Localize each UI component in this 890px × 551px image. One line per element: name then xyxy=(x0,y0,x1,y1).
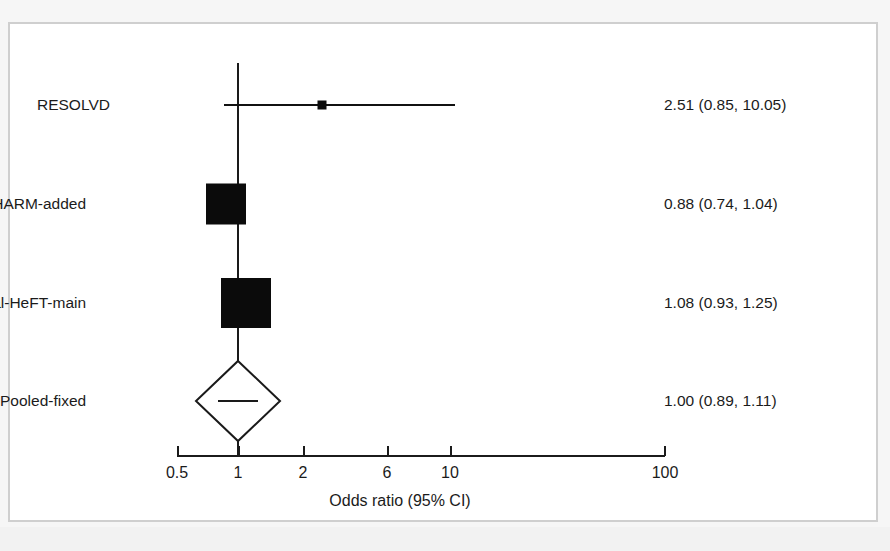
x-axis-tick-0-5 xyxy=(177,446,179,456)
stat-label-pooled-fixed: 1.00 (0.89, 1.11) xyxy=(664,392,777,410)
study-label-resolvd: RESOLVD xyxy=(37,96,110,114)
forest-plot-canvas: RESOLVD 2.51 (0.85, 10.05) CHARM-added 0… xyxy=(0,0,890,551)
stat-label-val-heft-main: 1.08 (0.93, 1.25) xyxy=(664,294,778,312)
study-label-pooled-fixed: Pooled-fixed xyxy=(0,392,86,410)
x-axis-title: Odds ratio (95% CI) xyxy=(329,492,470,510)
pooled-diamond-marker xyxy=(193,358,283,444)
x-axis-tick-100 xyxy=(664,446,666,456)
x-axis-tick-1 xyxy=(238,446,240,456)
x-axis-tick-10 xyxy=(450,446,452,456)
x-axis-tick-label-2: 2 xyxy=(299,464,308,482)
study-label-charm-added: CHARM-added xyxy=(0,195,86,213)
x-axis-tick-label-6: 6 xyxy=(383,464,392,482)
x-axis-line xyxy=(177,455,665,457)
study-label-val-heft-main: Val-HeFT-main xyxy=(0,294,86,312)
stat-label-resolvd: 2.51 (0.85, 10.05) xyxy=(664,96,786,114)
x-axis-tick-2 xyxy=(303,446,305,456)
x-axis-tick-6 xyxy=(387,446,389,456)
x-axis-tick-label-1: 1 xyxy=(234,464,243,482)
x-axis-tick-label-100: 100 xyxy=(652,464,679,482)
x-axis-tick-label-10: 10 xyxy=(441,464,459,482)
forest-plot-screenshot: RESOLVD 2.51 (0.85, 10.05) CHARM-added 0… xyxy=(0,0,890,551)
x-axis-tick-label-0-5: 0.5 xyxy=(166,464,188,482)
point-marker-resolvd xyxy=(318,101,327,110)
stat-label-charm-added: 0.88 (0.74, 1.04) xyxy=(664,195,778,213)
ci-line-resolvd xyxy=(224,104,455,106)
point-marker-val-heft-main xyxy=(221,278,271,328)
point-marker-charm-added xyxy=(206,184,246,225)
